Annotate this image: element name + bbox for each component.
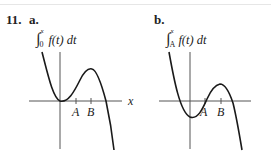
tick-a-B: B (87, 105, 94, 120)
graphs (0, 0, 271, 163)
tick-b-A: A (200, 105, 207, 120)
tick-a-A: A (72, 105, 79, 120)
tick-b-B: B (217, 105, 224, 120)
graph-b (159, 52, 251, 150)
x-axis-label-a: x (128, 94, 133, 109)
graph-a (29, 52, 122, 150)
